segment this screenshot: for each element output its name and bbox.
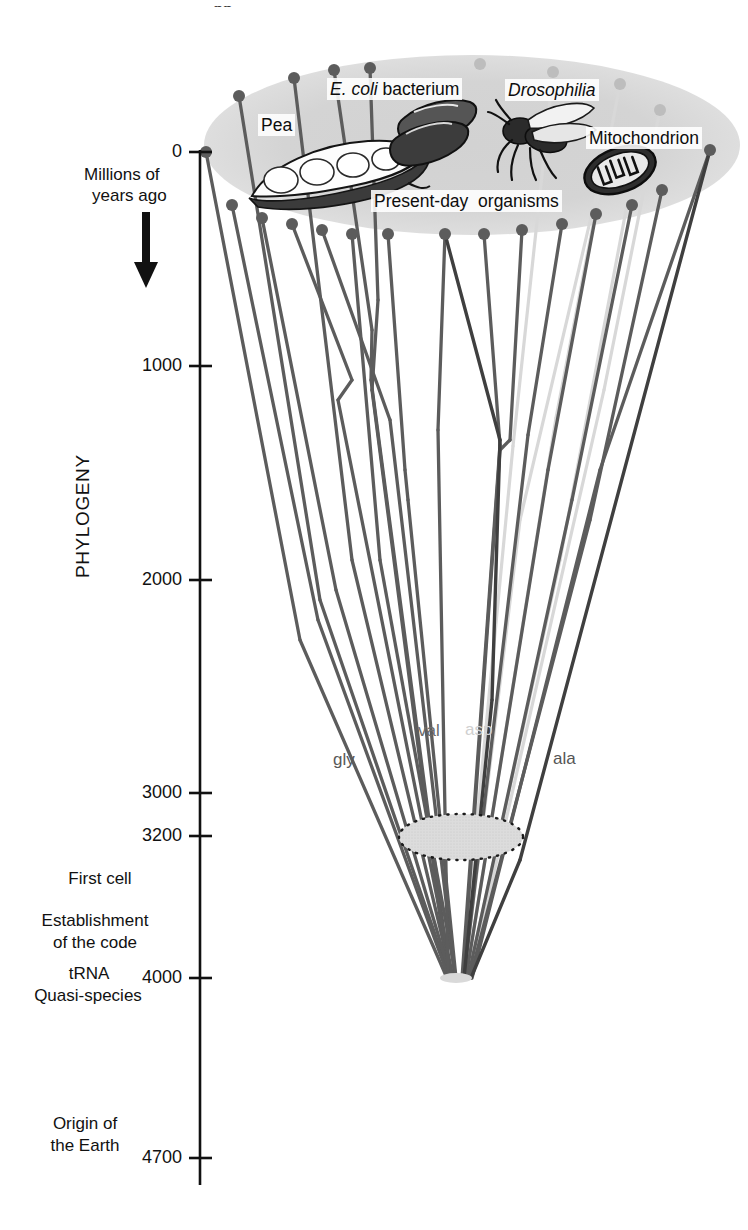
organism-label-pea: Pea <box>258 114 295 136</box>
lineage-label-gly: gly <box>333 750 355 769</box>
organism-label-drosophilia-italic: Drosophilia <box>508 80 596 100</box>
organism-label-ecoli-roman: bacterium <box>378 79 460 99</box>
event-trna-line1: tRNA <box>10 963 168 985</box>
time-axis <box>189 150 212 1185</box>
event-trna-line2: Quasi-species <box>5 985 171 1007</box>
axis-label-line2: years ago <box>92 185 167 206</box>
organism-label-mitochondrion: Mitochondrion <box>586 127 702 149</box>
axis-label-line1: Millions of <box>84 164 160 185</box>
lineage-label-asp: asp <box>465 720 492 739</box>
event-establishment-line1: Establishment <box>10 910 180 932</box>
event-origin-earth-line1: Origin of <box>10 1113 160 1135</box>
lineage-label-ala: ala <box>553 749 576 768</box>
event-origin-earth-line2: the Earth <box>10 1135 160 1157</box>
present-day-plane-label: Present-day organisms <box>371 190 562 212</box>
axis-title-phylogeny: PHYLOGENY <box>72 454 94 578</box>
tick-label-3000: 3000 <box>110 782 182 802</box>
time-direction-arrow <box>134 212 158 288</box>
first-cell-zone <box>399 814 523 860</box>
tick-label-1000: 1000 <box>110 355 182 375</box>
root-node <box>440 973 472 983</box>
organism-label-ecoli-italic: E. coli <box>330 79 378 99</box>
event-establishment-line2: of the code <box>10 932 180 954</box>
event-first-cell: First cell <box>20 868 180 890</box>
organism-label-ecoli: E. coli bacterium <box>327 78 462 100</box>
tick-label-3200: 3200 <box>110 825 182 845</box>
tick-label-0: 0 <box>140 141 182 161</box>
phylogeny-figure-page: pp <box>0 0 748 1230</box>
lineage-label-val: val <box>418 721 440 740</box>
tick-label-2000: 2000 <box>110 569 182 589</box>
organism-label-drosophilia: Drosophilia <box>505 79 599 101</box>
